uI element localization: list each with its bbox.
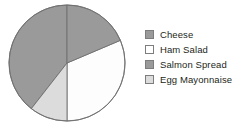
legend-label-cheese: Cheese [160,29,193,40]
legend: Cheese Ham Salad Salmon Spread Egg Mayon… [145,28,241,86]
legend-label-egg-mayonnaise: Egg Mayonnaise [160,74,232,85]
legend-item-ham-salad[interactable]: Ham Salad [145,43,241,56]
legend-label-ham-salad: Ham Salad [160,44,208,55]
pie-chart-figure: Cheese Ham Salad Salmon Spread Egg Mayon… [0,0,244,127]
legend-item-salmon-spread[interactable]: Salmon Spread [145,58,241,71]
legend-swatch-ham-salad [145,45,154,54]
legend-swatch-egg-mayonnaise [145,75,154,84]
pie-chart-svg [8,3,128,124]
legend-item-cheese[interactable]: Cheese [145,28,241,41]
legend-label-salmon-spread: Salmon Spread [160,59,227,70]
legend-item-egg-mayonnaise[interactable]: Egg Mayonnaise [145,73,241,86]
pie-slice-group [9,5,125,121]
pie-chart-plot-area [8,3,128,124]
legend-swatch-salmon-spread [145,60,154,69]
legend-swatch-cheese [145,30,154,39]
